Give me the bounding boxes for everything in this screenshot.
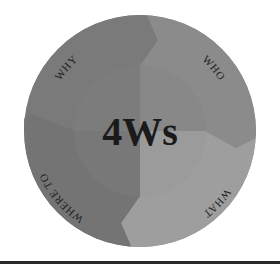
- 4ws-cycle-diagram: WHY WHO WHAT WHERE TO 4Ws: [0, 0, 280, 267]
- center-title: 4Ws: [102, 109, 178, 154]
- horizontal-rule: [0, 261, 280, 264]
